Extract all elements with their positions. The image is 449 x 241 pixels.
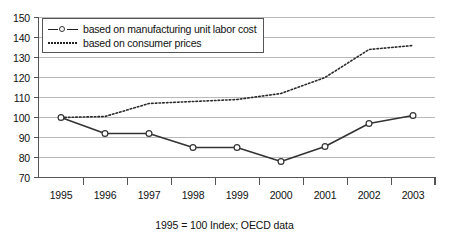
- x-tick-label: 2002: [358, 190, 381, 201]
- x-tick-label: 1996: [94, 190, 117, 201]
- x-tick-label: 2001: [314, 190, 337, 201]
- x-tick-label: 2000: [270, 190, 293, 201]
- x-axis-labels: 1995 1996 1997 1998 1999 2000 2001 2002 …: [0, 0, 449, 241]
- x-tick-label: 1999: [226, 190, 249, 201]
- x-tick-label: 1995: [50, 190, 73, 201]
- chart-caption: 1995 = 100 Index; OECD data: [0, 219, 449, 231]
- x-tick-label: 1997: [138, 190, 161, 201]
- x-tick-label: 2003: [402, 190, 425, 201]
- chart-container: 150 140 130 120 110 100 90 80 70: [0, 0, 449, 241]
- x-tick-label: 1998: [182, 190, 205, 201]
